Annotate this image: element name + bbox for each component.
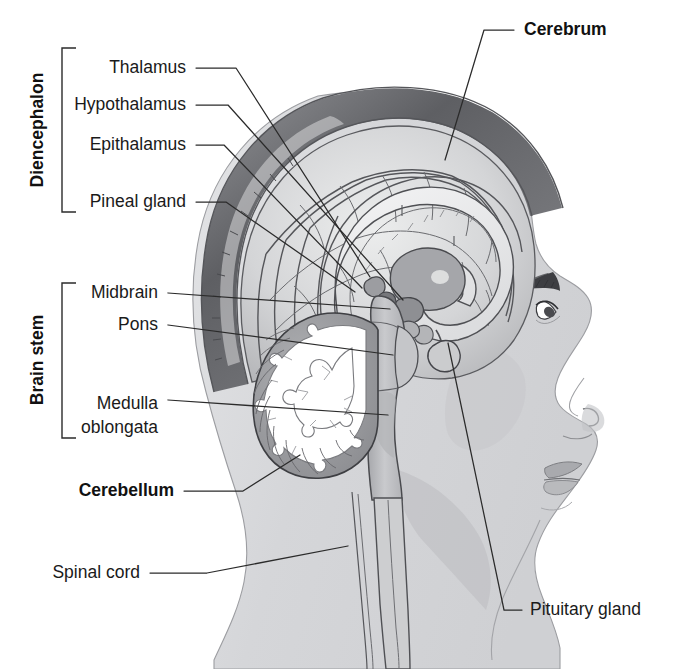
label-epithalamus: Epithalamus: [90, 134, 187, 154]
label-cerebellum: Cerebellum: [79, 480, 174, 500]
bracket-brain-stem: [62, 283, 76, 438]
label-hypothalamus: Hypothalamus: [74, 94, 186, 114]
label-pons: Pons: [118, 314, 158, 334]
label-pituitary-gland: Pituitary gland: [530, 599, 641, 619]
label-pineal-gland: Pineal gland: [90, 191, 186, 211]
label-medulla-oblongata-line2: oblongata: [81, 417, 158, 437]
group-label-brain-stem: Brain stem: [27, 315, 47, 405]
lower-lip: [544, 481, 578, 495]
diagram-canvas: Diencephalon Brain stem Thalamus Hypotha…: [0, 0, 677, 669]
label-medulla-oblongata-line1: Medulla: [97, 393, 159, 413]
bracket-diencephalon: [62, 48, 76, 212]
nose-bridge-crease: [569, 378, 584, 416]
nose-tip-shading: [582, 404, 605, 432]
label-thalamus: Thalamus: [109, 57, 186, 77]
brain-anatomy-diagram: Diencephalon Brain stem Thalamus Hypotha…: [0, 0, 677, 669]
group-label-diencephalon: Diencephalon: [27, 73, 47, 188]
thalamus-highlight: [431, 270, 449, 284]
label-cerebrum: Cerebrum: [524, 19, 607, 39]
label-spinal-cord: Spinal cord: [52, 562, 140, 582]
label-midbrain: Midbrain: [91, 282, 158, 302]
pituitary-gland-shape: [428, 341, 460, 372]
